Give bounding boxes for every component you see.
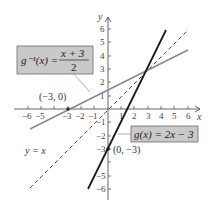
- y-tick-label: −2: [96, 131, 106, 141]
- y-tick-label: 6: [100, 24, 105, 34]
- g-inverse-lhs: g⁻¹(x) =: [21, 54, 58, 67]
- point-label-neg3-0: (−3, 0): [39, 91, 66, 103]
- x-axis-label: x: [196, 111, 202, 122]
- g-inverse-label-box: g⁻¹(x) = x + 3 2: [17, 46, 93, 74]
- g-inverse-denominator: 2: [71, 61, 77, 73]
- y-tick-label: −3: [96, 144, 106, 154]
- y-tick-label: 4: [100, 51, 105, 61]
- y-tick-label: 5: [100, 37, 105, 47]
- g-inverse-numerator: x + 3: [60, 47, 85, 59]
- label-y-equals-x: y = x: [24, 145, 46, 156]
- x-tick-label: 4: [159, 111, 164, 121]
- point-label-0-neg3: (0, −3): [113, 144, 140, 156]
- x-tick-label: 3: [146, 111, 151, 121]
- y-tick-label: 2: [100, 77, 105, 87]
- g-label-text: g(x) = 2x − 3: [134, 128, 194, 141]
- x-tick-label: 6: [186, 111, 191, 121]
- leader-line-g-inverse: [73, 73, 90, 92]
- y-tick-label: −1: [96, 117, 106, 127]
- x-tick-label: −2: [75, 111, 85, 121]
- x-tick-label: 2: [132, 111, 137, 121]
- y-tick-label: 3: [100, 64, 105, 74]
- y-tick-label: −5: [96, 171, 106, 181]
- x-tick-label: −6: [22, 111, 32, 121]
- y-axis-label: y: [97, 11, 103, 22]
- g-label-box: g(x) = 2x − 3: [131, 126, 198, 142]
- axes: [14, 17, 200, 200]
- graph-canvas: −6 −5 −3 −2 −1 1 2 3 4 5 6 x y 6 5 4 3 2…: [0, 0, 209, 213]
- x-tick-label: 5: [172, 111, 177, 121]
- x-tick-label: −5: [35, 111, 45, 121]
- point-neg3-0: [66, 107, 70, 111]
- y-tick-labels: y 6 5 4 3 2 1 −1 −2 −3 −5 −6: [96, 11, 106, 194]
- y-tick-label: −6: [96, 184, 106, 194]
- point-0-neg3: [106, 147, 110, 151]
